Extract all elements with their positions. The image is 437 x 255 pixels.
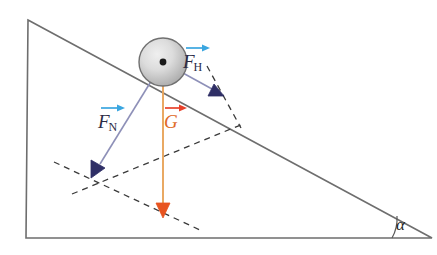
incline-outline (26, 20, 432, 238)
label-weight: G (164, 112, 178, 131)
label-weight-base: G (164, 111, 178, 132)
ball-on-incline (139, 38, 187, 86)
label-force-normal-base: F (98, 111, 110, 132)
vector-bar-icon-fn (100, 103, 126, 112)
construction-line-slope-dir (54, 162, 200, 230)
vector-force-slope-head (208, 84, 224, 96)
label-force-normal: FN (98, 112, 117, 133)
construction-line-closing (72, 124, 243, 194)
force-diagram-svg (0, 0, 437, 255)
label-force-slope: FH (183, 52, 202, 73)
vector-bar-icon-g (164, 103, 188, 112)
label-force-slope-sub: H (194, 60, 203, 74)
label-force-normal-sub: N (109, 120, 118, 134)
label-angle-alpha: α (396, 216, 405, 233)
label-force-slope-base: F (183, 51, 195, 72)
ball-center-dot (160, 59, 167, 66)
vector-force-normal-head (91, 160, 105, 178)
vector-bar-icon-fh (185, 43, 211, 52)
diagram-canvas: FH FN G α (0, 0, 437, 255)
incline-triangle (26, 20, 432, 238)
